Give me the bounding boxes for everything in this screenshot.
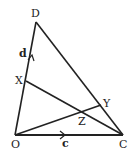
segment-oy	[15, 105, 101, 135]
label-c-point: C	[119, 138, 127, 151]
label-z-point: Z	[78, 115, 86, 128]
label-x-point: X	[15, 74, 23, 87]
label-o-point: O	[11, 138, 20, 151]
label-d-point: D	[31, 7, 40, 20]
label-vector-d: d	[19, 47, 27, 60]
label-y-point: Y	[102, 97, 111, 110]
label-vector-c: c	[62, 137, 69, 150]
geometry-diagram: D X O C Y Z d c	[0, 0, 135, 159]
